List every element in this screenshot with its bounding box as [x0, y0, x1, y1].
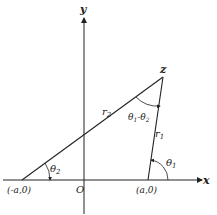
y-axis-label: y — [79, 3, 88, 16]
left-point-label: (-a,0) — [7, 185, 32, 195]
r2-label: r2 — [102, 106, 112, 119]
theta2-label: θ2 — [50, 163, 61, 176]
theta-diff-label: θ1-θ2 — [128, 112, 150, 123]
origin-label: O — [76, 184, 84, 195]
x-axis-label: x — [202, 174, 210, 187]
theta-diff-arc — [136, 97, 160, 106]
right-point-label: (a,0) — [136, 185, 157, 195]
apex-label-z: z — [159, 63, 167, 76]
theta1-label: θ1 — [166, 157, 177, 170]
triangle-diagram: y x O z (-a,0) (a,0) r2 r1 θ2 θ1 θ1-θ2 — [0, 0, 217, 215]
segment-r2 — [22, 77, 163, 180]
diagram-canvas: y x O z (-a,0) (a,0) r2 r1 θ2 θ1 θ1-θ2 — [0, 0, 217, 215]
r1-label: r1 — [155, 128, 164, 141]
